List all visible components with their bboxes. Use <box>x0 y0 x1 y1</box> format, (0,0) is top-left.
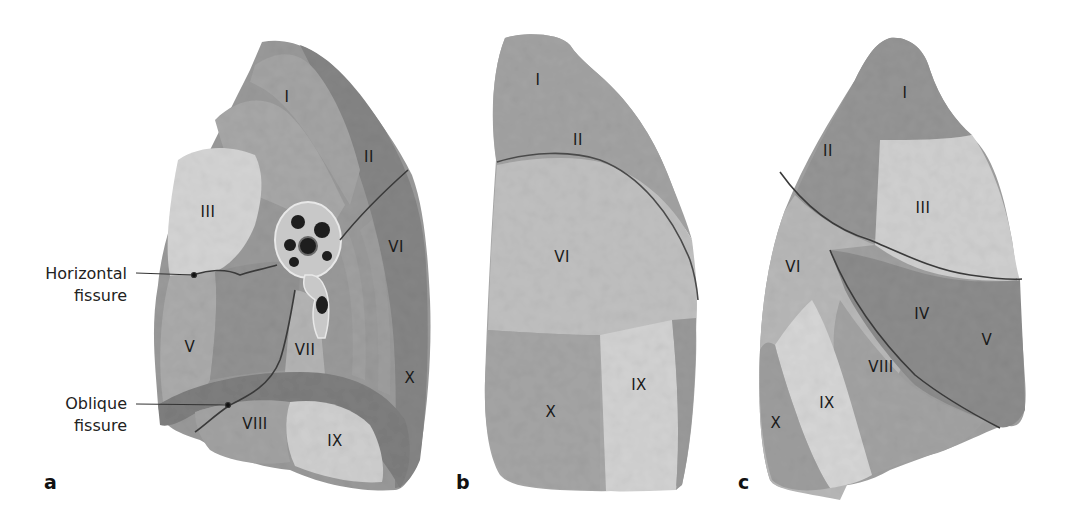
panel-b-segment-VI: VI <box>554 248 570 266</box>
panel-a-segment-I: I <box>285 88 290 106</box>
lung-segments-figure: I II III V VI VII VIII IX X Horizontal f… <box>0 0 1072 523</box>
panel-c-segment-III: III <box>916 199 931 217</box>
oblique-fissure-callout: Oblique fissure <box>30 393 127 437</box>
panel-a-segment-II: II <box>364 148 374 166</box>
panel-b-lung <box>485 34 697 491</box>
panel-b-segment-II: II <box>573 131 583 149</box>
panel-c-segment-II: II <box>823 142 833 160</box>
panel-c-segment-V: V <box>982 331 993 349</box>
panel-c-segment-IX: IX <box>819 394 835 412</box>
panel-b-segment-X: X <box>546 403 557 421</box>
horizontal-fissure-callout: Horizontal fissure <box>30 263 127 307</box>
panel-b-segment-IX: IX <box>631 376 647 394</box>
panel-c-segment-VI: VI <box>785 258 801 276</box>
panel-a-segment-V: V <box>185 338 196 356</box>
panel-label-b: b <box>456 471 470 493</box>
panel-c-segment-X: X <box>771 414 782 432</box>
panel-a-segment-III: III <box>201 203 216 221</box>
panel-a-segment-VII: VII <box>295 341 316 359</box>
panel-c-segment-IV: IV <box>914 305 930 323</box>
panel-a-segment-X: X <box>405 369 416 387</box>
panel-a-segment-IX: IX <box>327 432 343 450</box>
panel-label-a: a <box>44 471 57 493</box>
panel-c-segment-I: I <box>903 84 908 102</box>
panel-c-segment-VIII: VIII <box>868 358 894 376</box>
panel-a-segment-VI: VI <box>388 238 404 256</box>
panel-b-segment-I: I <box>536 71 541 89</box>
panel-label-c: c <box>738 471 749 493</box>
panel-a-segment-VIII: VIII <box>242 415 268 433</box>
